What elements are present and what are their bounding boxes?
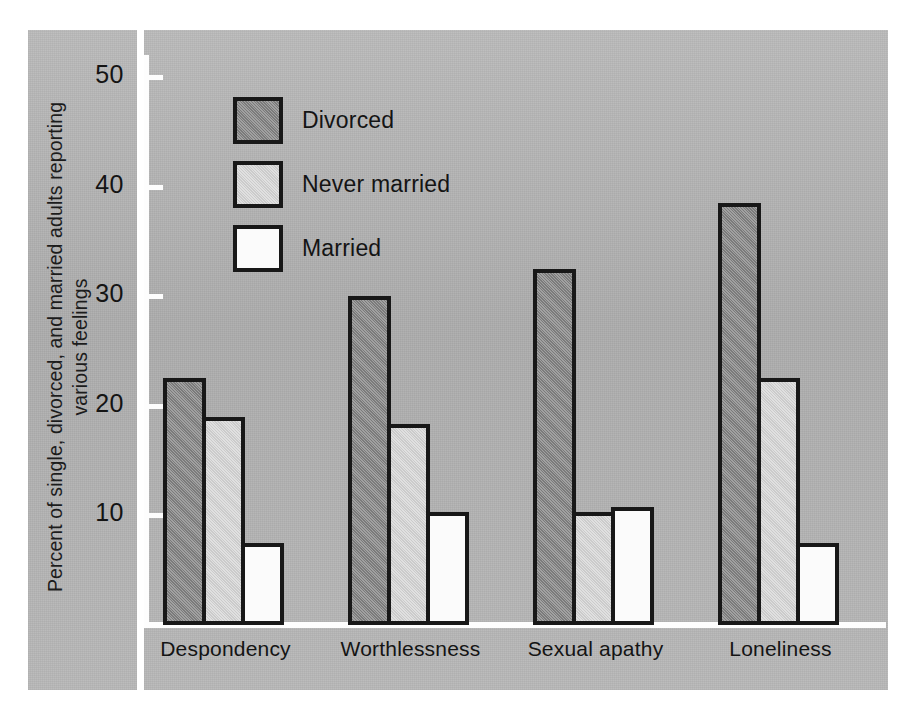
legend-swatch-married: [233, 225, 283, 272]
bar-divorced[interactable]: [533, 269, 576, 625]
bar-married[interactable]: [796, 543, 839, 625]
x-axis-label: Sexual apathy: [498, 637, 693, 661]
bar-never[interactable]: [387, 424, 430, 625]
y-tick-label: 50: [78, 60, 124, 89]
legend-item[interactable]: Divorced: [233, 93, 450, 148]
bar-divorced[interactable]: [718, 203, 761, 625]
legend-label: Married: [302, 235, 381, 262]
legend-item[interactable]: Never married: [233, 157, 450, 212]
x-axis-label: Worthlessness: [313, 637, 508, 661]
legend-item[interactable]: Married: [233, 221, 450, 276]
y-tick-label: 10: [78, 498, 124, 527]
bar-married[interactable]: [611, 507, 654, 625]
bar-divorced[interactable]: [163, 378, 206, 625]
bar-group: [718, 55, 843, 625]
bar-married[interactable]: [426, 512, 469, 625]
x-axis-label: Despondency: [128, 637, 323, 661]
y-tick-label: 30: [78, 279, 124, 308]
legend-label: Never married: [302, 171, 450, 198]
bar-group: [533, 55, 658, 625]
bar-group-bars: [533, 55, 650, 625]
bar-never[interactable]: [757, 378, 800, 625]
legend-label: Divorced: [302, 107, 394, 134]
legend-swatch-divorced: [233, 97, 283, 144]
legend-swatch-never: [233, 161, 283, 208]
legend: DivorcedNever marriedMarried: [233, 93, 450, 285]
bar-never[interactable]: [572, 512, 615, 625]
figure-page: Percent of single, divorced, and married…: [0, 0, 916, 709]
y-tick-label: 20: [78, 389, 124, 418]
y-tick-label: 40: [78, 170, 124, 199]
bar-group-bars: [718, 55, 835, 625]
x-axis-label: Loneliness: [683, 637, 878, 661]
bar-never[interactable]: [202, 417, 245, 625]
y-axis-label: Percent of single, divorced, and married…: [43, 77, 93, 617]
bar-divorced[interactable]: [348, 296, 391, 625]
bar-married[interactable]: [241, 543, 284, 625]
y-axis-label-area: Percent of single, divorced, and married…: [28, 30, 108, 690]
panel-divider: [137, 30, 144, 690]
